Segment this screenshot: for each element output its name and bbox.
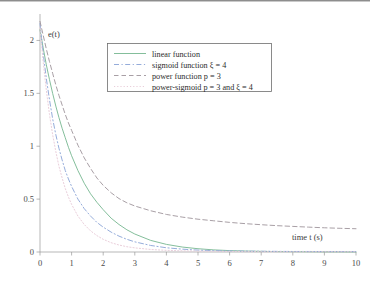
x-tick-label: 10: [352, 258, 361, 268]
legend-label: sigmoid function ξ = 4: [152, 61, 226, 70]
y-tick-label: 1.5: [23, 88, 34, 98]
y-tick-label: 1: [30, 141, 34, 151]
y-axis-ticks: 00.511.52: [23, 35, 40, 257]
legend-label: power-sigmoid p = 3 and ξ = 4: [152, 83, 253, 92]
x-axis-ticks: 012345678910: [38, 252, 360, 268]
y-tick-label: 2: [30, 35, 34, 45]
x-tick-label: 8: [291, 258, 295, 268]
y-tick-label: 0.5: [23, 194, 34, 204]
legend: linear functionsigmoid function ξ = 4pow…: [108, 44, 272, 92]
line-chart: 012345678910 00.511.52 e(t) time t (s) l…: [0, 0, 370, 287]
x-axis-label: time t (s): [292, 232, 323, 242]
y-axis-label: e(t): [48, 29, 60, 39]
x-tick-label: 4: [164, 258, 169, 268]
x-tick-label: 3: [133, 258, 137, 268]
x-tick-label: 2: [101, 258, 105, 268]
legend-label: linear function: [152, 50, 200, 59]
x-tick-label: 0: [38, 258, 42, 268]
figure-canvas: 012345678910 00.511.52 e(t) time t (s) l…: [0, 0, 370, 287]
x-tick-label: 9: [322, 258, 326, 268]
x-tick-label: 5: [196, 258, 200, 268]
legend-label: power function p = 3: [152, 72, 221, 81]
page-top-rule: [0, 0, 370, 3]
x-tick-label: 7: [259, 258, 263, 268]
x-tick-label: 6: [227, 258, 231, 268]
y-tick-label: 0: [30, 247, 34, 257]
x-tick-label: 1: [69, 258, 73, 268]
